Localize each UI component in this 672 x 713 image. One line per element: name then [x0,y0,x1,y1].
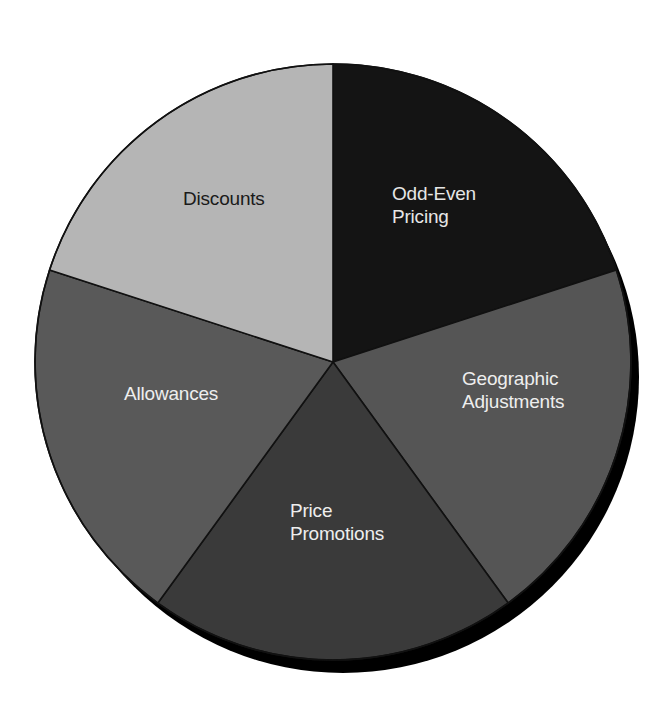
slice-label-line: Price [290,500,332,521]
slice-label-allowances: Allowances [124,383,218,404]
slice-label-line: Odd-Even [392,183,476,204]
slice-label-line: Geographic [462,368,558,389]
pie-chart: Odd-EvenPricingGeographicAdjustmentsPric… [0,0,672,713]
slice-label-line: Promotions [290,523,384,544]
pie-slices [35,64,631,660]
slice-label-discounts: Discounts [183,188,265,209]
pie-chart-svg: Odd-EvenPricingGeographicAdjustmentsPric… [0,0,672,713]
slice-label-line: Pricing [392,206,449,227]
slice-label-line: Adjustments [462,391,564,412]
slice-label-line: Allowances [124,383,218,404]
slice-label-line: Discounts [183,188,265,209]
